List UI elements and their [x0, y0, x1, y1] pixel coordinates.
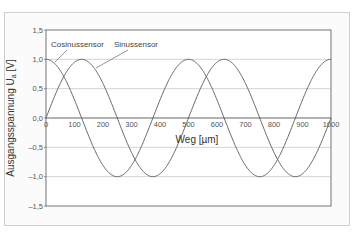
y-tick-label: 1,5	[33, 26, 43, 35]
x-tick-label: 900	[296, 120, 309, 129]
x-tick-label: 300	[125, 120, 138, 129]
x-tick-label: 800	[268, 120, 281, 129]
x-tick-label: 1000	[323, 120, 340, 129]
annotation-sinussensor: Sinussensor	[114, 40, 158, 49]
x-tick-label: 100	[68, 120, 81, 129]
x-tick-label: 0	[44, 120, 48, 129]
y-tick-label: 1,0	[33, 55, 43, 64]
chart: 1,51,00,50,0–0,5–1,0–1,5 010020030040050…	[0, 0, 362, 238]
annotation-cosinussensor: Cosinussensor	[51, 40, 104, 49]
x-tick-label: 600	[211, 120, 224, 129]
y-tick-label: –1,0	[28, 172, 43, 181]
y-tick-label: 0,5	[33, 84, 43, 93]
x-tick-label: 700	[239, 120, 252, 129]
x-tick-label: 500	[182, 120, 195, 129]
x-axis-label: Weg [µm]	[176, 134, 219, 145]
y-tick-label: –1,5	[28, 202, 43, 211]
y-tick-label: 0,0	[33, 114, 43, 123]
x-tick-label: 200	[97, 120, 110, 129]
y-tick-label: –0,5	[28, 143, 43, 152]
x-tick-label: 400	[154, 120, 167, 129]
